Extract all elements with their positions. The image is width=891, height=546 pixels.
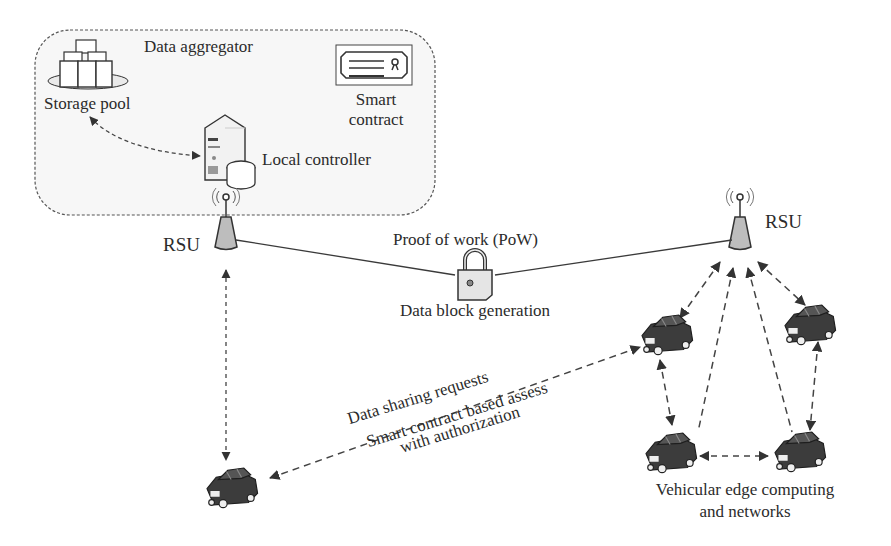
- certificate-icon: [336, 45, 412, 85]
- rsu-antenna-icon-left: [212, 188, 239, 250]
- storage-pool-label: Storage pool: [44, 94, 130, 113]
- padlock-icon: [458, 250, 492, 300]
- smart-contract-label-1: Smart: [346, 90, 406, 109]
- smart-contract-label-2: contract: [338, 110, 414, 129]
- data-block-label: Data block generation: [400, 301, 550, 320]
- diagram-canvas: [0, 0, 891, 546]
- car-icon-bottom-left: [207, 468, 258, 508]
- vec-label-1: Vehicular edge computing: [630, 480, 860, 499]
- pow-label: Proof of work (PoW): [393, 230, 538, 249]
- car-icon-d: [775, 432, 826, 472]
- aggregator-title: Data aggregator: [144, 37, 253, 56]
- car-icon-b: [785, 305, 836, 345]
- rsu-left-label: RSU: [163, 235, 200, 254]
- car-icon-a: [642, 315, 693, 355]
- rsu-right-label: RSU: [765, 212, 802, 231]
- local-controller-label: Local controller: [262, 150, 371, 169]
- car-icon-c: [646, 433, 697, 473]
- vec-label-2: and networks: [630, 502, 860, 521]
